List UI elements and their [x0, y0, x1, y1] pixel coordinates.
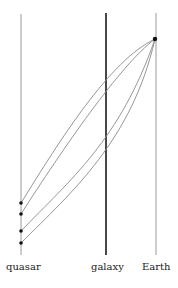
- diagram-canvas: [0, 0, 178, 288]
- emission-dot-2: [19, 212, 23, 216]
- light-ray-2: [21, 39, 155, 214]
- light-ray-4: [21, 39, 155, 243]
- quasar-label: quasar: [6, 261, 41, 272]
- emission-dot-3: [19, 229, 23, 233]
- earth-label: Earth: [142, 261, 171, 272]
- observer-event-dot: [153, 37, 157, 41]
- light-ray-1: [21, 39, 155, 203]
- galaxy-label: galaxy: [91, 261, 124, 272]
- light-ray-3: [21, 39, 155, 231]
- emission-dot-1: [19, 201, 23, 205]
- emission-dot-4: [19, 241, 23, 245]
- lensing-diagram: quasar galaxy Earth: [0, 0, 178, 288]
